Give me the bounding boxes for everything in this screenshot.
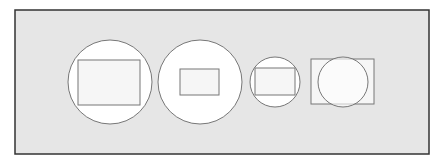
shapes-diagram [0,0,439,164]
circle-shape [318,57,368,107]
rectangle-shape [180,69,219,95]
shape-pair-4 [311,57,374,107]
shape-pair-1 [68,40,152,124]
rectangle-shape [78,60,140,105]
shape-pair-3 [250,57,300,107]
rectangle-shape [255,68,295,95]
shape-pair-2 [158,40,242,124]
